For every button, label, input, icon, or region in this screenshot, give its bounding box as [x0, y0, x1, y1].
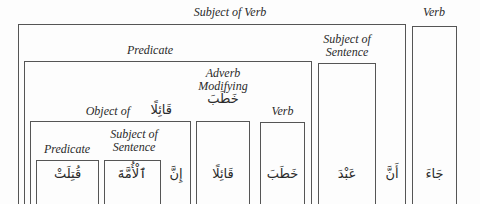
subject-of-sentence-label-2: Sentence	[318, 46, 376, 59]
word-al-ummah: ٱلْأُمَّةَ	[104, 166, 161, 181]
adverb-arabic-label: خَطَبَ	[196, 91, 250, 106]
subject-of-sentence-box	[318, 63, 376, 204]
word-qailan: قَائِلًا	[196, 166, 250, 181]
verb-inner-label: Verb	[260, 105, 305, 118]
verb-label: Verb	[412, 6, 456, 19]
word-khataba: خَطَبَ	[260, 166, 305, 181]
word-qutilat: قُتِلَتْ	[36, 166, 99, 181]
object-of-label: Object of	[70, 105, 130, 118]
word-jaa: جَاءَ	[412, 166, 457, 181]
verb-inner-box	[260, 122, 305, 204]
object-of-arabic-label: قَائِلًا	[132, 102, 172, 117]
predicate-inner-label: Predicate	[36, 143, 98, 156]
subject-inner-label-2: Sentence	[106, 141, 162, 154]
adverb-box	[196, 121, 250, 204]
subject-of-verb-label: Subject of Verb	[180, 6, 280, 19]
word-abd: عَبْدَ	[318, 166, 376, 181]
word-inna: إِنَّ	[162, 166, 190, 181]
word-anna: أَنَّ	[378, 166, 406, 181]
predicate-label: Predicate	[100, 44, 200, 57]
